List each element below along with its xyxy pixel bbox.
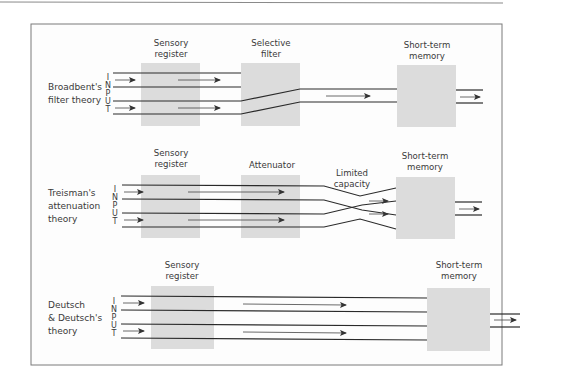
stage-label: memory	[441, 271, 477, 281]
theory-label: attenuation	[48, 201, 100, 211]
theory-label: filter theory	[48, 95, 102, 105]
theory-label: Treisman's	[47, 188, 96, 198]
stage-label: memory	[409, 51, 445, 61]
stage-label: Limited	[336, 168, 368, 178]
short-term-memory-box	[427, 288, 490, 351]
short-term-memory-box	[397, 65, 456, 127]
stage-label: Sensory	[165, 260, 200, 270]
stage-label: Short-term	[402, 151, 449, 161]
stage-label: Sensory	[154, 148, 189, 158]
stage-label: register	[154, 159, 188, 169]
stage-label: Sensory	[154, 38, 189, 48]
theory-label: theory	[48, 326, 78, 336]
stage-label: register	[154, 49, 188, 59]
top-rule	[0, 2, 503, 3]
sensory-register-box	[151, 286, 214, 349]
stage-label: register	[165, 271, 199, 281]
short-term-memory-box	[396, 177, 455, 239]
attention-theories-diagram: Sensory register Selective filter Short-…	[0, 0, 565, 387]
theory-label: theory	[48, 214, 78, 224]
svg-text:T: T	[111, 329, 117, 338]
theory-label: & Deutsch's	[48, 313, 102, 323]
stage-label: filter	[261, 49, 281, 59]
stage-label: Selective	[251, 38, 290, 48]
stage-label: Short-term	[404, 40, 451, 50]
stage-label: Attenuator	[249, 160, 296, 170]
theory-label: Deutsch	[48, 300, 85, 310]
stage-label: capacity	[334, 179, 370, 189]
theory-label: Broadbent's	[48, 82, 102, 92]
attenuator-box	[241, 175, 300, 238]
sensory-register-box	[141, 175, 200, 238]
stage-label: memory	[407, 162, 443, 172]
svg-text:T: T	[105, 105, 111, 114]
stage-label: Short-term	[436, 260, 483, 270]
svg-text:T: T	[112, 217, 118, 226]
